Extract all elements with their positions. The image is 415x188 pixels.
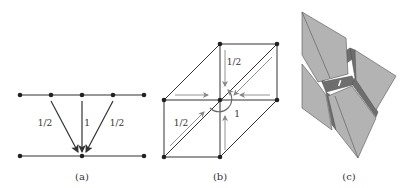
panel-b: 1/2 1/2 1 (b) <box>162 42 280 182</box>
weight-rotation: 1 <box>234 109 240 119</box>
weight-center: 1 <box>84 118 90 128</box>
panel-c: (c) <box>302 12 396 182</box>
weight-right: 1/2 <box>110 118 124 128</box>
weight-top: 1/2 <box>227 57 241 67</box>
arrow-left <box>51 101 78 152</box>
weight-diagonal: 1/2 <box>174 118 188 128</box>
caption-b: (b) <box>213 171 227 182</box>
weight-left: 1/2 <box>38 118 52 128</box>
panel-a: 1/2 1 1/2 (a) <box>18 93 147 182</box>
face-upper-left <box>302 12 348 82</box>
figure: 1/2 1 1/2 (a) <box>0 0 415 188</box>
caption-c: (c) <box>342 171 356 182</box>
caption-a: (a) <box>75 171 89 182</box>
